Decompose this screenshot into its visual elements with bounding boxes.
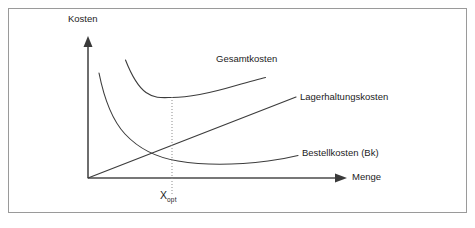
series-label-gesamtkosten: Gesamtkosten	[216, 54, 277, 64]
optimum-label-subscript: opt	[167, 196, 177, 203]
y-axis-label: Kosten	[68, 14, 98, 24]
optimum-label: Xopt	[160, 190, 177, 204]
series-label-lagerhaltungskosten: Lagerhaltungskosten	[300, 92, 388, 102]
curve-gesamtkosten	[126, 60, 266, 98]
curve-bestellkosten	[99, 73, 298, 164]
line-lagerhaltungskosten	[88, 97, 296, 178]
diagram-canvas: Kosten Menge Gesamtkosten Lagerhaltungsk…	[0, 0, 475, 228]
x-axis-label: Menge	[352, 172, 381, 182]
plot-area	[0, 0, 475, 228]
y-axis-arrow-icon	[84, 36, 93, 47]
optimum-label-base: X	[160, 189, 167, 201]
x-axis-arrow-icon	[335, 174, 347, 183]
series-label-bestellkosten: Bestellkosten (Bk)	[302, 148, 379, 158]
